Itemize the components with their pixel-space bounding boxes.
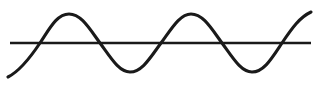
sine-wave-figure: Sine wave intersecting a horizontal stra… bbox=[0, 0, 316, 101]
figure-background bbox=[0, 0, 316, 101]
figure-container: Sine wave intersecting a horizontal stra… bbox=[0, 0, 316, 101]
